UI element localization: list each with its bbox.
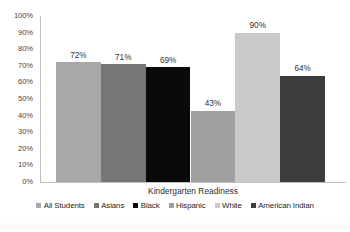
bar-group[interactable]: 64% (280, 16, 325, 182)
bar-white[interactable] (235, 33, 280, 182)
bar-american-indian[interactable] (280, 76, 325, 182)
legend-swatch-icon (36, 203, 41, 208)
bar-value-label: 64% (280, 64, 325, 73)
legend-swatch-icon (251, 203, 256, 208)
legend-item[interactable]: Asians (94, 201, 125, 210)
bar-group[interactable]: 71% (101, 16, 146, 182)
y-axis-tick-label: 90% (18, 29, 33, 37)
bar-group[interactable]: 69% (146, 16, 191, 182)
bars-layer: 72%71%69%43%90%64% (56, 16, 325, 182)
legend-item-label: All Students (44, 201, 85, 210)
legend-item-label: Black (141, 201, 160, 210)
bar-asians[interactable] (101, 64, 146, 182)
y-axis-tick-label: 40% (18, 112, 33, 120)
legend-swatch-icon (215, 203, 220, 208)
legend-item[interactable]: Hispanic (169, 201, 206, 210)
bar-value-label: 69% (146, 56, 191, 65)
bar-all-students[interactable] (56, 62, 101, 182)
legend-item-label: Hispanic (176, 201, 205, 210)
y-axis-tick-labels: 0%10%20%30%40%50%60%70%80%90%100% (0, 16, 36, 182)
bar-group[interactable]: 72% (56, 16, 101, 182)
legend-item-label: White (222, 201, 242, 210)
legend-item-label: Asians (101, 201, 124, 210)
legend-swatch-icon (94, 203, 99, 208)
y-axis-tick-label: 50% (18, 95, 33, 103)
bar-group[interactable]: 43% (191, 16, 236, 182)
bar-value-label: 43% (191, 99, 236, 108)
x-axis-line (40, 182, 346, 183)
legend-item-label: American Indian (258, 201, 314, 210)
bar-value-label: 71% (101, 53, 146, 62)
bar-black[interactable] (146, 67, 191, 182)
legend-swatch-icon (169, 203, 174, 208)
chart-legend: All StudentsAsiansBlackHispanicWhiteAmer… (0, 199, 350, 211)
y-axis-tick-label: 30% (18, 128, 33, 136)
y-axis-tick-label: 70% (18, 62, 33, 70)
legend-swatch-icon (133, 203, 138, 208)
bar-value-label: 72% (56, 51, 101, 60)
legend-item[interactable]: Black (133, 201, 159, 210)
y-axis-tick-label: 0% (22, 178, 33, 186)
y-axis-tick-label: 60% (18, 78, 33, 86)
legend-item[interactable]: All Students (36, 201, 84, 210)
page-scan-artifact (0, 220, 350, 232)
y-axis-tick-label: 10% (18, 161, 33, 169)
bar-group[interactable]: 90% (235, 16, 280, 182)
y-axis-tick-label: 20% (18, 145, 33, 153)
kindergarten-readiness-bar-chart: 0%10%20%30%40%50%60%70%80%90%100% 72%71%… (0, 0, 350, 232)
x-axis-title: Kindergarten Readiness (40, 186, 346, 196)
y-axis-tick-label: 100% (14, 12, 33, 20)
legend-item[interactable]: White (215, 201, 242, 210)
legend-item[interactable]: American Indian (251, 201, 314, 210)
y-axis-tick-label: 80% (18, 45, 33, 53)
bar-value-label: 90% (235, 21, 280, 30)
bar-hispanic[interactable] (191, 111, 236, 182)
